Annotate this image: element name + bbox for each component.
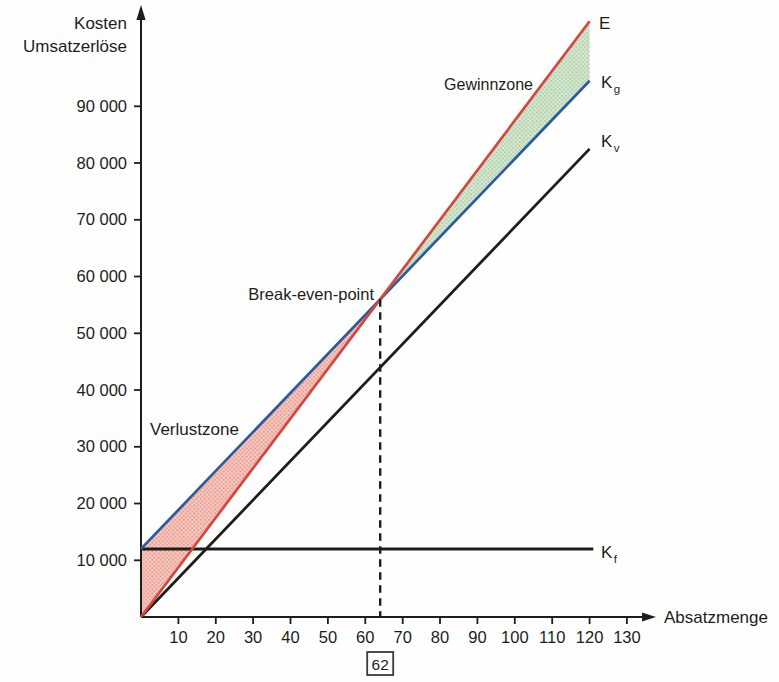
x-tick-label: 80 (431, 628, 449, 646)
series-label-Kg: Kg (601, 73, 620, 95)
x-axis-arrow-icon (642, 612, 656, 621)
y-tick-label: 20 000 (77, 494, 127, 512)
x-tick-label: 100 (501, 628, 529, 646)
x-tick-label: 60 (356, 628, 374, 646)
y-tick-label: 60 000 (77, 267, 127, 285)
y-axis-title-line2: Umsatzerlöse (23, 37, 127, 56)
series-line-Kv (141, 149, 590, 617)
x-tick-label: 70 (394, 628, 412, 646)
x-tick-label: 50 (319, 628, 337, 646)
break-even-label: Break-even-point (248, 285, 374, 303)
x-tick-label: 110 (539, 628, 565, 646)
y-tick-label: 80 000 (77, 154, 127, 172)
y-tick-label: 50 000 (77, 324, 127, 342)
x-tick-label: 130 (613, 628, 641, 646)
x-axis-title: Absatzmenge (664, 608, 768, 627)
y-tick-label: 10 000 (77, 551, 127, 569)
series-line-Kg (141, 81, 590, 549)
x-tick-label: 40 (281, 628, 299, 646)
y-axis-arrow-icon (136, 5, 145, 20)
y-tick-label: 40 000 (77, 381, 127, 399)
y-tick-label: 90 000 (77, 97, 127, 115)
series-label-Kf: Kf (601, 543, 618, 565)
y-tick-label: 30 000 (77, 437, 127, 455)
x-tick-label: 120 (576, 628, 604, 646)
series-label-Kv: Kv (601, 132, 620, 154)
zone-verlust-label: Verlustzone (150, 420, 239, 439)
y-tick-label: 70 000 (77, 210, 127, 228)
x-tick-label: 20 (207, 628, 225, 646)
x-tick-label: 30 (244, 628, 262, 646)
x-tick-label: 10 (169, 628, 187, 646)
page: 10203040506070809010011012013010 00020 0… (0, 0, 779, 682)
series-line-E (141, 21, 590, 617)
series-label-E: E (599, 14, 610, 33)
break-even-value: 62 (372, 656, 389, 673)
x-tick-label: 90 (468, 628, 486, 646)
break-even-chart: 10203040506070809010011012013010 00020 0… (0, 0, 779, 682)
zone-gewinn-label: Gewinnzone (444, 76, 533, 93)
y-axis-title-line1: Kosten (74, 14, 127, 33)
